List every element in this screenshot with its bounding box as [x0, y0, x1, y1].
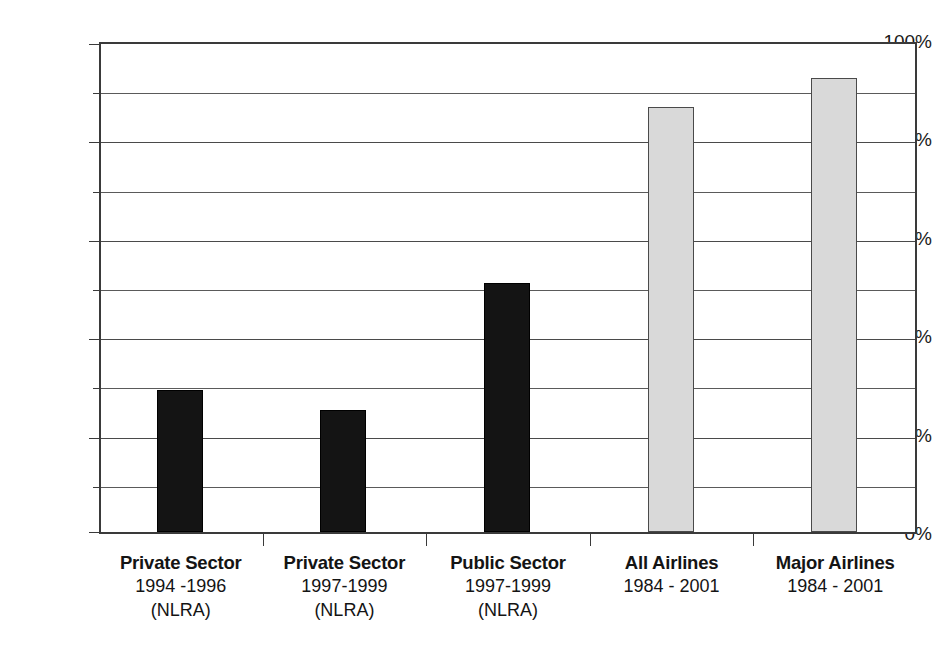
category-4-line-2: 1984 - 2001	[590, 575, 754, 599]
plot-area	[99, 42, 917, 534]
y-tick-100	[89, 44, 101, 45]
category-5-line-1: Major Airlines	[753, 551, 917, 575]
gridline-70	[101, 192, 915, 193]
bar-major-airlines-1984-2001	[811, 78, 857, 532]
x-axis-category-label-5: Major Airlines 1984 - 2001	[753, 551, 917, 599]
y-tick-0	[89, 532, 101, 533]
category-1-line-3: (NLRA)	[99, 599, 263, 623]
category-4-line-1: All Airlines	[590, 551, 754, 575]
x-tick-1	[263, 534, 264, 546]
y-tick-50	[93, 290, 101, 291]
y-tick-80	[89, 142, 101, 143]
category-3-line-3: (NLRA)	[426, 599, 590, 623]
category-2-line-1: Private Sector	[263, 551, 427, 575]
gridline-80	[101, 142, 915, 143]
bar-private-sector-1994-1996	[157, 390, 203, 532]
category-2-line-2: 1997-1999	[263, 575, 427, 599]
x-tick-2	[426, 534, 427, 546]
category-3-line-1: Public Sector	[426, 551, 590, 575]
x-axis-category-label-3: Public Sector 1997-1999 (NLRA)	[426, 551, 590, 623]
category-5-line-2: 1984 - 2001	[753, 575, 917, 599]
category-1-line-2: 1994 -1996	[99, 575, 263, 599]
x-axis-category-label-2: Private Sector 1997-1999 (NLRA)	[263, 551, 427, 623]
x-axis-category-label-4: All Airlines 1984 - 2001	[590, 551, 754, 599]
category-3-line-2: 1997-1999	[426, 575, 590, 599]
x-axis-category-label-1: Private Sector 1994 -1996 (NLRA)	[99, 551, 263, 623]
y-tick-70	[93, 192, 101, 193]
category-2-line-3: (NLRA)	[263, 599, 427, 623]
y-tick-10	[93, 487, 101, 488]
x-tick-3	[590, 534, 591, 546]
bar-public-sector-1997-1999	[484, 283, 530, 532]
category-1-line-1: Private Sector	[99, 551, 263, 575]
y-tick-20	[89, 438, 101, 439]
y-tick-60	[89, 241, 101, 242]
gridline-90	[101, 93, 915, 94]
bar-private-sector-1997-1999	[320, 410, 366, 532]
x-tick-4	[753, 534, 754, 546]
y-tick-40	[89, 339, 101, 340]
gridline-60	[101, 241, 915, 242]
bar-all-airlines-1984-2001	[648, 107, 694, 532]
y-tick-30	[93, 388, 101, 389]
y-tick-90	[93, 93, 101, 94]
bar-chart: 100% 80% 60% 40% 20% 0%	[0, 0, 950, 653]
